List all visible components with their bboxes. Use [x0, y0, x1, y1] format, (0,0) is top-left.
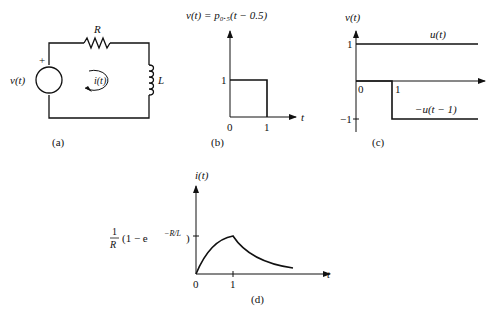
svg-text:t: t	[301, 111, 305, 123]
svg-text:u(t): u(t)	[430, 28, 446, 41]
figure: + v(t) R L i(t) (a) v(t) = p₀.₅(t − 0.5)…	[0, 0, 500, 316]
svg-text:1: 1	[221, 74, 227, 86]
svg-text:i(t): i(t)	[94, 75, 107, 87]
panel-c-step-plot: v(t) 1 −1 0 1 u(t) −u(t − 1) (c)	[340, 11, 485, 149]
svg-text:1: 1	[230, 278, 236, 290]
svg-text:1: 1	[395, 83, 401, 95]
voltage-source-icon	[36, 67, 62, 93]
svg-text:R: R	[93, 23, 101, 35]
svg-text:i(t): i(t)	[195, 169, 209, 182]
svg-text:+: +	[39, 54, 45, 66]
svg-text:1: 1	[112, 226, 117, 237]
svg-text:0: 0	[227, 121, 233, 133]
svg-text:L: L	[157, 74, 164, 86]
panel-d-current-plot: i(t) 1 R (1 − e −R/L ) 0 1 t (d)	[109, 169, 331, 306]
svg-text:(c): (c)	[372, 136, 385, 149]
svg-text:(d): (d)	[251, 293, 264, 306]
panel-a-circuit: + v(t) R L i(t) (a)	[10, 23, 164, 149]
svg-text:t: t	[327, 268, 331, 280]
svg-text:v(t): v(t)	[345, 11, 361, 24]
svg-text:−u(t − 1): −u(t − 1)	[415, 103, 457, 116]
svg-text:1: 1	[347, 38, 353, 50]
svg-text:0: 0	[358, 83, 364, 95]
resistor-icon	[84, 38, 110, 48]
svg-text:R: R	[109, 239, 116, 250]
svg-text:v(t) = p₀.₅(t − 0.5): v(t) = p₀.₅(t − 0.5)	[186, 9, 267, 22]
svg-text:1: 1	[264, 121, 270, 133]
svg-text:): )	[186, 232, 190, 245]
svg-text:−1: −1	[340, 113, 352, 125]
svg-text:(b): (b)	[211, 136, 224, 149]
svg-text:0: 0	[193, 278, 199, 290]
panel-b-pulse-plot: v(t) = p₀.₅(t − 0.5) 1 0 1 t (b)	[186, 9, 305, 149]
svg-text:(1 − e: (1 − e	[122, 232, 148, 245]
svg-text:−R/L: −R/L	[164, 229, 182, 238]
inductor-icon	[149, 65, 154, 95]
svg-text:v(t): v(t)	[10, 74, 26, 87]
svg-text:(a): (a)	[52, 136, 65, 149]
figure-svg: + v(t) R L i(t) (a) v(t) = p₀.₅(t − 0.5)…	[0, 0, 500, 316]
